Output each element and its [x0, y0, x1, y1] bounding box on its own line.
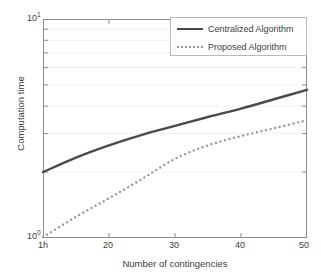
legend-label-centralized-algorithm: Centralized Algorithm [208, 24, 294, 34]
figure-container: 101 100 1h 20 30 40 50 Computation time … [0, 0, 321, 279]
x-tick-label-40: 40 [235, 241, 245, 250]
legend-box: Centralized Algorithm Proposed Algorithm [170, 17, 307, 56]
legend-entry-centralized-algorithm: Centralized Algorithm [171, 19, 306, 38]
x-tick-label-50: 50 [299, 241, 309, 250]
x-tick-label-1h: 1h [38, 241, 48, 250]
x-tick-label-20: 20 [103, 241, 113, 250]
y-axis-title: Computation time [15, 54, 26, 174]
x-tick-label-30: 30 [169, 241, 179, 250]
legend-label-proposed-algorithm: Proposed Algorithm [208, 42, 287, 52]
legend-swatch-solid-line-icon [177, 24, 203, 34]
legend-entry-proposed-algorithm: Proposed Algorithm [171, 37, 306, 56]
x-axis-title: Number of contingencies [43, 258, 307, 269]
y-tick-label-top: 101 [27, 14, 41, 23]
legend-swatch-dotted-line-icon [177, 42, 203, 52]
